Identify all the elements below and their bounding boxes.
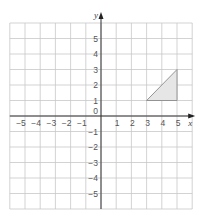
y-axis-arrow-icon bbox=[99, 12, 104, 19]
x-tick-label: 4 bbox=[160, 118, 165, 128]
x-tick-label: −1 bbox=[77, 118, 87, 128]
x-tick-label: −5 bbox=[16, 118, 26, 128]
x-tick-label: −4 bbox=[31, 118, 41, 128]
axes bbox=[10, 12, 195, 209]
y-tick-label: −1 bbox=[88, 127, 98, 137]
y-tick-label: −3 bbox=[88, 158, 98, 168]
x-tick-label: 2 bbox=[130, 118, 135, 128]
x-tick-label: −3 bbox=[47, 118, 57, 128]
y-tick-label: 1 bbox=[93, 96, 98, 106]
y-axis-label: y bbox=[93, 10, 98, 20]
x-axis-label: x bbox=[187, 118, 192, 128]
coordinate-grid: xy−5−4−3−2−11234554321−1−2−3−4−50 bbox=[0, 0, 206, 216]
y-tick-label: 4 bbox=[93, 49, 98, 59]
x-tick-label: 1 bbox=[115, 118, 120, 128]
y-tick-label: −4 bbox=[88, 173, 98, 183]
y-tick-label: 3 bbox=[93, 65, 98, 75]
origin-label: 0 bbox=[93, 106, 98, 116]
x-tick-label: 5 bbox=[176, 118, 181, 128]
y-tick-label: 5 bbox=[93, 34, 98, 44]
x-tick-label: −2 bbox=[62, 118, 72, 128]
y-tick-label: −5 bbox=[88, 189, 98, 199]
x-tick-label: 3 bbox=[145, 118, 150, 128]
y-tick-label: −2 bbox=[88, 142, 98, 152]
y-tick-label: 2 bbox=[93, 80, 98, 90]
